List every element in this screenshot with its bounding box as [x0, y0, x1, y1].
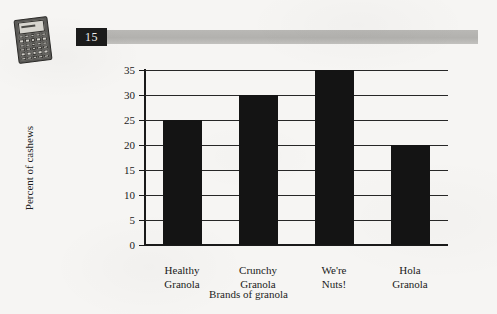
bar: [391, 145, 430, 245]
bar-chart: Percent of cashews 05101520253035 Health…: [0, 58, 497, 314]
y-tick-label: 25: [124, 115, 135, 126]
y-tick-mark: [139, 120, 145, 121]
bar: [163, 120, 202, 245]
category-label: HolaGranola: [392, 264, 427, 291]
y-tick-label: 0: [130, 240, 136, 251]
category-label: CrunchyGranola: [239, 264, 277, 291]
header-rule: [107, 30, 478, 44]
category-label: HealthyGranola: [164, 264, 199, 291]
category-label-line: We're: [322, 264, 347, 278]
y-tick-mark: [139, 195, 145, 196]
category-label: We'reNuts!: [322, 264, 347, 291]
x-axis-title: Brands of granola: [0, 288, 497, 300]
y-tick-label: 20: [124, 140, 135, 151]
gridline: [144, 95, 448, 96]
exercise-number: 15: [76, 28, 107, 46]
category-label-line: Hola: [392, 264, 427, 278]
calculator-keypad: [18, 32, 49, 60]
y-tick-mark: [139, 70, 145, 71]
y-tick-label: 35: [124, 65, 135, 76]
category-label-line: Crunchy: [239, 264, 277, 278]
y-tick-label: 30: [124, 90, 135, 101]
y-tick-mark: [139, 170, 145, 171]
y-axis-title: Percent of cashews: [23, 98, 35, 238]
calculator-icon: [13, 16, 52, 64]
y-tick-mark: [139, 245, 145, 246]
y-tick-mark: [139, 95, 145, 96]
y-tick-label: 15: [124, 165, 135, 176]
category-label-line: Healthy: [164, 264, 199, 278]
y-tick-label: 5: [130, 215, 136, 226]
gridline: [144, 70, 448, 71]
plot-area: 05101520253035 HealthyGranolaCrunchyGran…: [144, 70, 448, 245]
bar: [315, 70, 354, 245]
y-tick-mark: [139, 145, 145, 146]
bar: [239, 95, 278, 245]
exercise-header: 15: [76, 29, 478, 45]
calculator-screen-text: [21, 25, 35, 29]
y-tick-mark: [139, 220, 145, 221]
y-tick-label: 10: [124, 190, 135, 201]
